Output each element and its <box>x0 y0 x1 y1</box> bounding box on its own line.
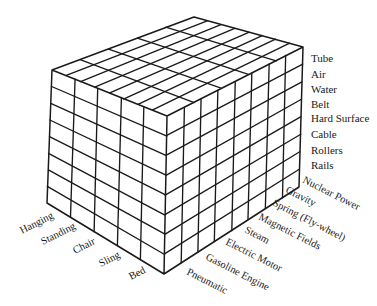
right-depth-axis-labels: Pneumatic Gasoline Engine Electric Motor… <box>185 174 362 296</box>
left-depth-label: Sling <box>97 249 122 269</box>
vertical-label: Air <box>311 68 326 80</box>
right-depth-label: Steam <box>243 224 271 246</box>
grid-line <box>48 153 164 215</box>
vertical-label: Cable <box>311 128 337 140</box>
left-depth-label: Chair <box>71 235 97 256</box>
cube-grid: Tube Air Water Belt Hard Surface Cable R… <box>0 0 377 306</box>
left-depth-axis-labels: Hanging Standing Chair Sling Bed <box>18 209 148 282</box>
vertical-label: Water <box>311 83 337 95</box>
vertical-label: Tube <box>311 52 333 64</box>
grid-line <box>109 49 222 88</box>
vertical-label: Hard Surface <box>311 112 369 124</box>
grid-line <box>49 137 165 195</box>
grid-line <box>137 38 248 74</box>
vertical-label: Rollers <box>311 144 343 156</box>
vertical-axis-labels: Tube Air Water Belt Hard Surface Cable R… <box>311 52 369 171</box>
morphological-box-diagram: Tube Air Water Belt Hard Surface Cable R… <box>0 0 377 306</box>
vertical-label: Rails <box>311 159 334 171</box>
left-depth-label: Bed <box>127 264 148 282</box>
grid-line <box>166 27 276 61</box>
vertical-label: Belt <box>311 98 329 110</box>
grid-line <box>47 186 164 254</box>
